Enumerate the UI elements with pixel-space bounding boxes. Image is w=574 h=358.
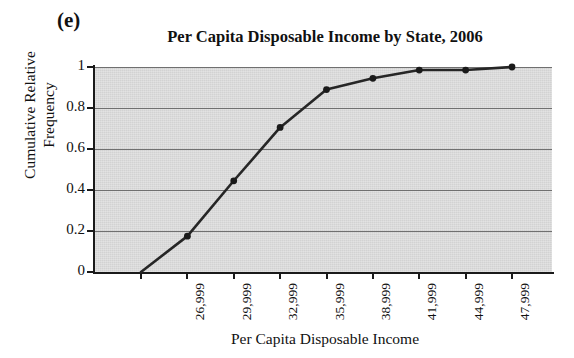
x-tick-label: 41,999: [424, 283, 440, 320]
y-tick-label: 0: [50, 262, 85, 279]
x-tick-mark: [511, 272, 513, 279]
y-tick-mark: [87, 66, 94, 68]
x-tick-mark: [233, 272, 235, 279]
y-tick-label: 0.6: [50, 139, 85, 156]
x-tick-mark: [418, 272, 420, 279]
gridline: [95, 231, 552, 232]
chart-title: Per Capita Disposable Income by State, 2…: [95, 27, 555, 47]
x-tick-label: 29,999: [239, 283, 255, 320]
x-tick-mark: [326, 272, 328, 279]
x-tick-label: 26,999: [192, 283, 208, 320]
gridline: [95, 190, 552, 191]
y-tick-label: 1: [50, 57, 85, 74]
y-tick-label: 0.2: [50, 221, 85, 238]
x-tick-label: 47,999: [517, 283, 533, 320]
x-tick-mark: [140, 272, 142, 279]
x-tick-label: 32,999: [285, 283, 301, 320]
x-tick-mark: [279, 272, 281, 279]
y-tick-label: 0.8: [50, 98, 85, 115]
gridline: [95, 149, 552, 150]
gridline: [95, 67, 552, 68]
x-tick-mark: [186, 272, 188, 279]
x-tick-label: 35,999: [332, 283, 348, 320]
y-tick-mark: [87, 230, 94, 232]
plot-background-texture: [95, 67, 552, 272]
x-tick-label: 44,999: [471, 283, 487, 320]
plot-area: [95, 67, 552, 272]
y-tick-mark: [87, 271, 94, 273]
y-tick-mark: [87, 107, 94, 109]
x-tick-label: 38,999: [378, 283, 394, 320]
y-tick-mark: [87, 148, 94, 150]
x-tick-mark: [465, 272, 467, 279]
y-tick-label: 0.4: [50, 180, 85, 197]
figure-panel: (e) Per Capita Disposable Income by Stat…: [0, 0, 574, 358]
panel-label: (e): [57, 8, 80, 33]
x-axis-spine: [93, 272, 554, 274]
y-axis-spine: [93, 65, 95, 274]
gridline: [95, 108, 552, 109]
x-axis-title: Per Capita Disposable Income: [95, 330, 555, 348]
y-axis-title-line1: Cumulative Relative: [20, 5, 39, 225]
y-tick-mark: [87, 189, 94, 191]
x-tick-mark: [372, 272, 374, 279]
